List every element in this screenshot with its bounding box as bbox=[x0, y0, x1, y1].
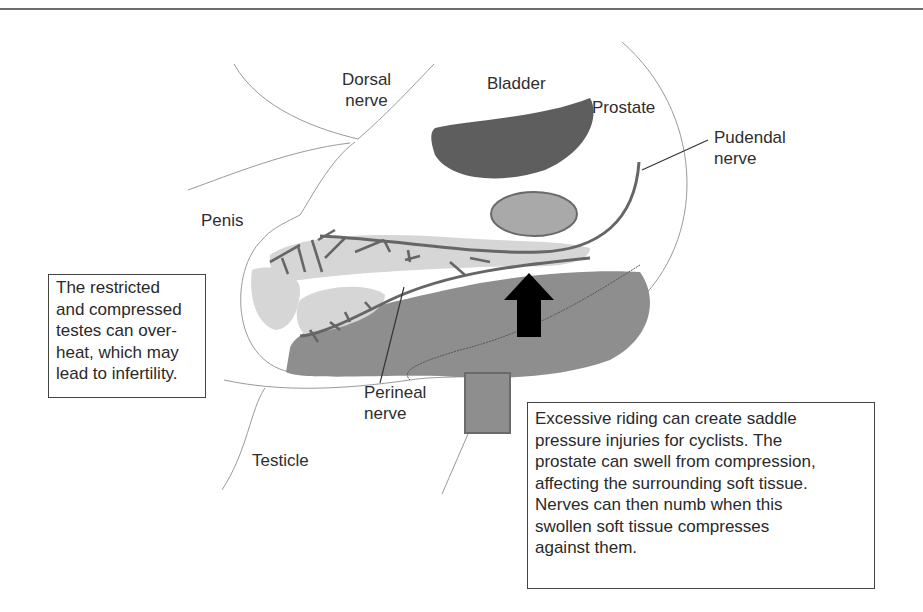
label-line: nerve bbox=[364, 403, 426, 424]
pudendal-leader bbox=[642, 140, 708, 170]
label-line: nerve bbox=[714, 148, 786, 169]
label-testicle: Testicle bbox=[252, 450, 309, 471]
note-line: Nerves can then numb when this bbox=[535, 494, 868, 516]
label-line: nerve bbox=[342, 90, 391, 111]
label-prostate: Prostate bbox=[592, 97, 655, 118]
label-bladder: Bladder bbox=[487, 73, 546, 94]
dorsal-nerve-branch-lower bbox=[262, 142, 355, 240]
label-perineal-nerve: Perineal nerve bbox=[364, 382, 426, 424]
label-dorsal-nerve: Dorsal nerve bbox=[342, 69, 391, 111]
label-penis: Penis bbox=[201, 210, 244, 231]
note-line: swollen soft tissue compresses bbox=[535, 516, 868, 538]
label-line: Perineal bbox=[364, 382, 426, 403]
dorsal-nerve-curve-left bbox=[234, 64, 358, 139]
label-line: Dorsal bbox=[342, 69, 391, 90]
note-line: heat, which may bbox=[56, 342, 199, 364]
saddle-icon bbox=[465, 373, 510, 433]
note-saddle: Excessive riding can create saddle press… bbox=[527, 402, 875, 589]
testicle-curve bbox=[222, 388, 265, 490]
note-line: prostate can swell from compression, bbox=[535, 451, 868, 473]
note-line: and compressed bbox=[56, 299, 199, 321]
note-testes: The restricted and compressed testes can… bbox=[48, 274, 206, 398]
note-line: against them. bbox=[535, 537, 868, 559]
dorsal-nerve-branch-upper bbox=[188, 143, 350, 190]
note-line: lead to infertility. bbox=[56, 363, 199, 385]
label-line: Pudendal bbox=[714, 127, 786, 148]
note-line: testes can over- bbox=[56, 320, 199, 342]
prostate-shape bbox=[491, 192, 577, 236]
note-line: Excessive riding can create saddle bbox=[535, 408, 868, 430]
corpus-lower bbox=[251, 268, 300, 330]
note-line: affecting the surrounding soft tissue. bbox=[535, 473, 868, 495]
bladder-shape bbox=[431, 98, 593, 178]
label-pudendal-nerve: Pudendal nerve bbox=[714, 127, 786, 169]
note-line: The restricted bbox=[56, 277, 199, 299]
note-line: pressure injuries for cyclists. The bbox=[535, 430, 868, 452]
saddle-post bbox=[442, 434, 468, 494]
